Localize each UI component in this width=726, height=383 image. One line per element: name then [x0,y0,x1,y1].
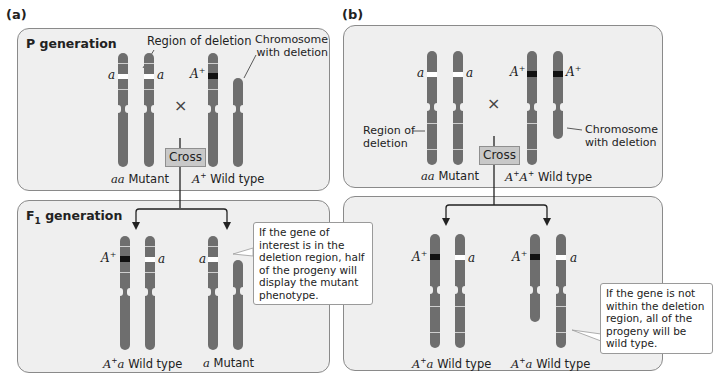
progeny-caption-wild-2: A+a Wild type [511,356,590,371]
chromosome-with-deletion-label: Chromosome with deletion [585,123,658,149]
allele-label: A+ [190,66,205,81]
chromosome-a-f1-mutant-2 [208,236,218,350]
allele-label: a [570,251,577,265]
chromosome-a-f1-mutant [145,236,155,350]
chromosome-b-f1-wild-1 [430,234,440,348]
chromosome-b-p-mutant-1 [427,51,437,165]
allele-label: a [158,252,165,266]
chromosome-a-p-deletion [233,78,243,167]
parent-caption-wild: A+ Wild type [192,171,264,186]
chromosome-a-p-mutant-1 [118,53,128,167]
allele-label: A+ [412,249,427,264]
allele-label: a [466,66,473,80]
cross-label: Cross [165,148,206,167]
chromosome-a-p-mutant-2 [144,53,154,167]
cross-symbol: × [174,96,187,115]
progeny-caption-mutant: a Mutant [203,356,254,370]
allele-label: a [199,252,206,266]
allele-label: A+ [510,64,525,79]
chromosome-a-p-wild [208,53,218,167]
chromosome-b-f1-deletion [530,234,540,322]
parent-caption-mutant: aa Mutant [421,169,479,183]
cross-label: Cross [479,146,520,165]
cross-symbol: × [487,94,500,113]
callout-b: If the gene is not within the deletion r… [600,283,713,354]
parent-caption-wild: A+A+ Wild type [505,169,592,184]
chromosome-b-p-mutant-2 [453,51,463,165]
chromosome-a-f1-deletion [233,260,243,350]
parent-caption-mutant: aa Mutant [111,172,169,186]
chromosome-b-p-deletion [553,51,563,139]
chromosome-b-p-wild [527,51,537,165]
allele-label: A+ [101,250,116,265]
allele-label: a [108,68,115,82]
chromosome-a-f1-wild [120,236,130,350]
chromosome-b-f1-mutant-2 [556,234,566,348]
chromosome-b-f1-mutant-1 [455,234,465,348]
allele-label: A+ [566,64,581,79]
allele-label: A+ [512,249,527,264]
allele-label: a [468,251,475,265]
progeny-caption-wild: A+a Wild type [103,356,182,371]
chromosome-with-deletion-label: Chromosome with deletion [255,33,328,59]
callout-a: If the gene of interest is in the deleti… [253,222,373,305]
allele-label: a [417,66,424,80]
allele-label: a [157,68,164,82]
region-of-deletion-label: Region of deletion [363,124,415,150]
region-of-deletion-label: Region of deletion [147,34,251,48]
progeny-caption-wild: A+a Wild type [412,356,491,371]
